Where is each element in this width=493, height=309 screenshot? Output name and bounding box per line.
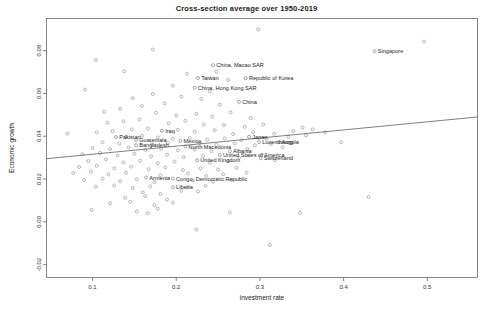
data-point (84, 88, 87, 91)
data-point (109, 148, 112, 151)
data-point (167, 122, 170, 125)
data-point (273, 132, 276, 135)
data-point (111, 130, 114, 133)
point-label: Taiwan (201, 75, 218, 81)
data-point (124, 196, 127, 199)
data-point (135, 210, 138, 213)
point-label: China, Macao SAR (216, 62, 264, 68)
point-label: Angola (282, 139, 300, 145)
data-point (151, 93, 154, 96)
data-point (130, 165, 133, 168)
data-point (66, 132, 69, 135)
data-point (94, 185, 97, 188)
data-point (153, 204, 156, 207)
point-label: Switzerland (264, 155, 293, 161)
data-point (253, 144, 256, 147)
data-point (149, 185, 152, 188)
data-point (116, 154, 119, 157)
data-point (104, 158, 107, 161)
data-point (118, 142, 121, 145)
x-axis-ticks: 0.10.20.30.40.5 (88, 278, 432, 290)
data-point-labeled (193, 86, 196, 89)
data-point-labeled (171, 186, 174, 189)
data-point (181, 169, 184, 172)
data-point (139, 159, 142, 162)
scatter-plot-figure: Cross-section average over 1950-2019 0.1… (0, 0, 493, 309)
data-point (195, 228, 198, 231)
data-point (227, 78, 230, 81)
point-label: Iraq (165, 128, 175, 134)
data-point (233, 142, 236, 145)
data-point (164, 166, 167, 169)
data-point-labeled (114, 136, 117, 139)
point-label: Republic of Korea (249, 75, 294, 81)
data-point (135, 178, 138, 181)
data-point (311, 128, 314, 131)
data-point (123, 70, 126, 73)
data-point (176, 128, 179, 131)
y-tick-label: 0.06 (36, 87, 42, 99)
data-point (150, 155, 153, 158)
point-label: Bangladesh (139, 142, 169, 148)
data-point (186, 172, 189, 175)
data-point (95, 131, 98, 134)
data-point (235, 166, 238, 169)
data-point (232, 133, 235, 136)
data-point (223, 137, 226, 140)
x-tick-label: 0.5 (423, 284, 432, 290)
data-point (210, 150, 213, 153)
point-label: North Macedonia (189, 144, 232, 150)
data-point (153, 181, 156, 184)
data-point (101, 141, 104, 144)
point-label: Congo, Democratic Republic (176, 176, 247, 182)
data-point (91, 147, 94, 150)
data-point (249, 117, 252, 120)
data-point (119, 180, 122, 183)
data-point (94, 59, 97, 62)
y-tick-label: 0.08 (36, 44, 42, 56)
data-point (268, 243, 271, 246)
data-point (109, 202, 112, 205)
data-point-labeled (160, 129, 163, 132)
data-point (422, 40, 425, 43)
data-point (171, 137, 174, 140)
data-point (103, 110, 106, 113)
y-tick-label: 0.04 (36, 130, 42, 142)
data-point (166, 153, 169, 156)
point-label: China (242, 99, 258, 105)
data-point (107, 173, 110, 176)
x-tick-label: 0.3 (256, 284, 265, 290)
data-point (122, 161, 125, 164)
data-point (171, 84, 174, 87)
data-point-labeled (196, 77, 199, 80)
data-point (131, 187, 134, 190)
data-point (243, 125, 246, 128)
data-point-labeled (258, 141, 261, 144)
data-point (90, 208, 93, 211)
point-labels-layer: SingaporeChina, Macao SARTaiwanRepublic … (119, 48, 403, 190)
data-point (262, 123, 265, 126)
data-point (155, 111, 158, 114)
data-point (163, 102, 166, 105)
data-point (140, 105, 143, 108)
data-point (199, 167, 202, 170)
data-point (141, 191, 144, 194)
data-point-labeled (244, 77, 247, 80)
data-point (228, 211, 231, 214)
data-point-labeled (145, 176, 148, 179)
data-point (304, 134, 307, 137)
data-point (218, 103, 221, 106)
data-point (195, 112, 198, 115)
data-point (144, 195, 147, 198)
data-point (186, 72, 189, 75)
data-point (184, 119, 187, 122)
data-point (202, 123, 205, 126)
data-point (138, 118, 141, 121)
data-point (127, 146, 130, 149)
data-point (217, 168, 220, 171)
data-point (122, 120, 125, 123)
data-point (340, 141, 343, 144)
data-point (146, 127, 149, 130)
point-label: Liberia (176, 184, 194, 190)
data-point-labeled (135, 144, 138, 147)
